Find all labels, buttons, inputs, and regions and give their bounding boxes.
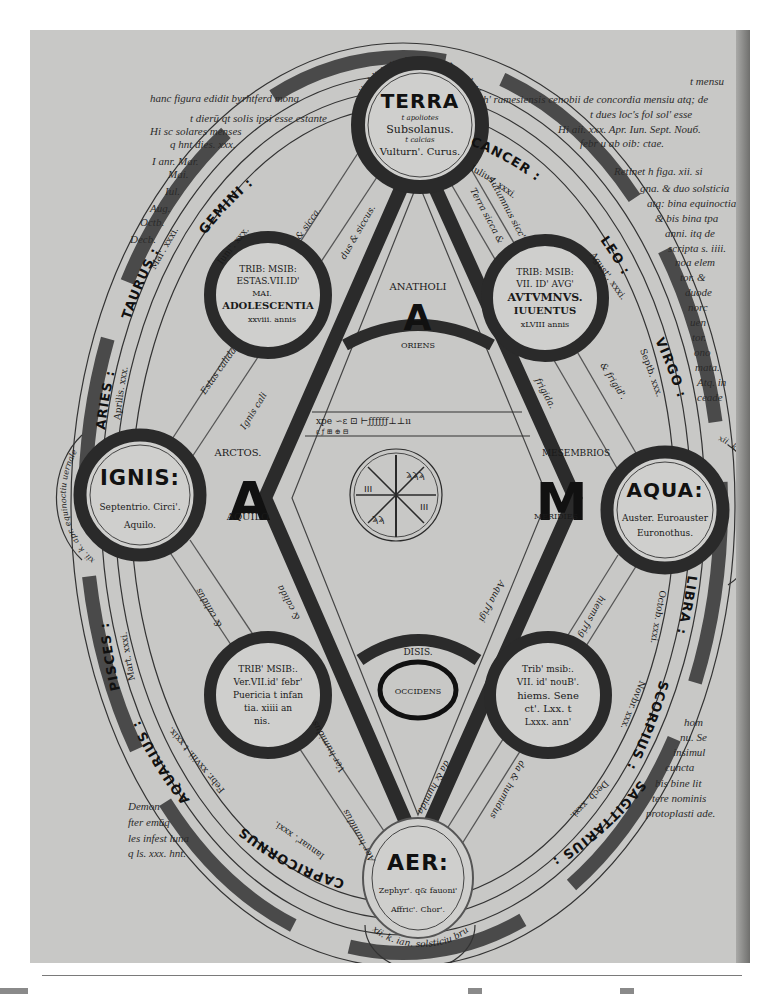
aquilo-label: AQUILO [226, 511, 270, 522]
margin-left-i: I anr. Mar. [151, 155, 198, 167]
ignis-title: IGNIS: [100, 466, 180, 490]
margin-right-h: Hi aii. xxx. Apr. Iun. Sept. Nouб. [557, 123, 701, 135]
hiems-l3: hiems. Sene [517, 690, 579, 701]
margin-right-r9: norc [688, 301, 708, 313]
margin-left-gloss: t dierū qt solis ipsi esse cstante [190, 112, 327, 124]
mesembrios-word: MESEMBRIOS [542, 448, 610, 458]
zodiac-libra: LIBRA : [674, 575, 700, 637]
ignis-line2: Aquilo. [123, 520, 156, 530]
ignis-line1: Septentrio. Circi'. [99, 502, 180, 512]
meridies-label: MERIDIES [534, 512, 578, 521]
quality-calidus: & calidus [193, 586, 223, 629]
ver-l3: Puericia t infan [233, 690, 303, 700]
svg-text:ııı: ııı [420, 501, 428, 512]
bottom-rule [42, 975, 742, 976]
svg-text:ııı: ııı [364, 483, 372, 494]
season-autumnus: TRIB: MSIB: VII. ID' AVG' AVTVMNVS. IUUE… [487, 240, 603, 356]
margin-right-r14: Atq. in [696, 376, 727, 388]
margin-right-r4: anni. itq de [665, 227, 715, 239]
aestas-l3: MAI. [252, 289, 272, 298]
ver-l1: TRIB' MSIB:. [238, 664, 298, 674]
quality-da-humidus: da & humidus [488, 759, 527, 821]
margin-right-bottom-6: protoplasti ade. [645, 807, 715, 819]
compass-east: ANATHOLI A ORIENS [389, 281, 447, 350]
margin-top-right-gloss: t mensu [690, 75, 724, 87]
terra-line4: Vulturn'. Curus. [379, 146, 461, 157]
aestas-l1: TRIB: MSIB: [239, 264, 296, 274]
disis-word: DISIS. [403, 647, 432, 657]
aqua-title: AQUA: [627, 478, 704, 502]
compass-west: DISIS. OCCIDENS [380, 647, 456, 718]
aqua-line2: Euronothus. [637, 528, 693, 538]
svg-text:ϡϡϡ: ϡϡϡ [406, 469, 425, 480]
margin-right-bottom-1: nu. Se [680, 731, 707, 743]
month-martius: Mart. xxxi. [119, 631, 137, 682]
aer-line2: Affric'. Chor'. [390, 905, 445, 914]
central-wheel [350, 449, 442, 541]
ver-l4: tia. xiiii an [244, 703, 292, 713]
manuscript-page: ıııııı ϡϡϡϡϡ xii. kl' iul'. Avtvmnale so… [30, 30, 750, 963]
svg-text:ϡϡ: ϡϡ [372, 513, 385, 524]
aqua-circle: AQUA: Auster. Euroauster Euronothus. [607, 452, 723, 568]
margin-right-r11: tor. [692, 331, 706, 343]
rune-row-2: ε ƒ ⊞ ⊕ ⊟ [316, 428, 349, 436]
margin-left-list-2: Aug. [149, 202, 170, 214]
compass-south: MESEMBRIOS M MERIDIES [534, 448, 610, 532]
margin-top-left: hanc figura edidit byrhtferd mona [150, 92, 300, 104]
south-letter: M [536, 472, 589, 532]
autumnus-l2: VII. ID' AVG' [515, 279, 574, 289]
margin-right-gloss: t dues loc's fol sol' esse [590, 108, 692, 120]
margin-left-list-0: Mai. [167, 168, 188, 180]
terra-line2: Subsolanus. [386, 123, 453, 136]
margin-top-right: ch' ramesiensis cenobii de concordia men… [478, 93, 708, 105]
autumnus-l5: xLVIII annis [521, 320, 569, 329]
margin-left-list-3: Octb. [140, 216, 164, 228]
terra-circle: TERRA t apoliotes Subsolanus. t calcias … [358, 63, 482, 187]
quality-aer-humidus: Aer humidus [340, 807, 377, 864]
ver-l5: nis. [254, 716, 270, 726]
quality-sicca: & sicca. [293, 205, 322, 241]
oriens-label: ORIENS [401, 341, 435, 350]
anatholi-word: ANATHOLI [389, 281, 447, 292]
hiems-l2: VII. id' nouB'. [516, 677, 579, 687]
byrhtferth-diagram: ıııııı ϡϡϡϡϡ xii. kl' iul'. Avtvmnale so… [30, 30, 750, 963]
margin-left-bottom-2: les infest luna [128, 832, 190, 844]
aqua-line1: Auster. Euroauster [621, 513, 709, 523]
quality-hiems-frig: hiems frig [576, 594, 607, 640]
svg-text:LIBRA :: LIBRA : [674, 575, 700, 637]
terra-line1: t apoliotes [401, 114, 439, 122]
margin-right-bottom-2: insimul [673, 746, 705, 758]
autumnus-l1: TRIB: MSIB: [516, 267, 573, 277]
margin-right-r8: duode [685, 286, 712, 298]
margin-left-bottom-1: fter emūq [128, 816, 170, 828]
compass-north: ARCTOS. A AQUILO [214, 447, 272, 533]
margin-right-h2: febr u ab oib: ctae. [580, 137, 664, 149]
aestas-l4: ADOLESCENTIA [221, 300, 314, 311]
margin-right-r10: uen [690, 316, 706, 328]
east-letter: A [404, 297, 433, 338]
autumnus-l4: IUUENTUS [514, 305, 576, 316]
quality-aqua-frigi: Aqua frigi [477, 578, 508, 624]
margin-right-r6: noa elem [675, 256, 715, 268]
svg-text:Mart. xxxi.: Mart. xxxi. [119, 631, 137, 682]
zodiac-aquarius: AQUARIUS : [128, 718, 192, 808]
margin-left-h: Hi sc solares menses [149, 125, 242, 137]
margin-left-bottom-3: q ls. xxx. hnt. [128, 847, 186, 859]
quality-ver-humidus: Ver humidus [309, 719, 347, 774]
hiems-l5: Lxxx. ann' [525, 717, 571, 727]
svg-text:AQUARIUS :: AQUARIUS : [128, 718, 192, 808]
quality-estas-calida: Estas calida [198, 345, 238, 397]
margin-right-r5: scripta s. iiii. [668, 242, 726, 254]
aer-circle: AER: Zephyr'. q& fauoni' Affric'. Chor'. [363, 818, 473, 938]
margin-right-r7: tor. & [680, 271, 706, 283]
aer-title: AER: [387, 850, 449, 875]
aestas-l2: ESTAS.VII.ID' [236, 276, 299, 286]
aer-line1: Zephyr'. q& fauoni' [379, 886, 458, 895]
quality-ignis-cali: Ignis cali [238, 390, 269, 432]
terra-title: TERRA [381, 89, 460, 113]
margin-right-r1: gna. & duo solsticia [640, 182, 730, 194]
ignis-circle: IGNIS: Septentrio. Circi'. Aquilo. [80, 435, 200, 555]
margin-left-list-1: Iul. [164, 185, 180, 197]
rune-row-1: xpe ∽ε ⊡ ⊢ƒƒƒƒƒƒ⊥⊥ıı [316, 416, 411, 426]
margin-right-r15: ceade [697, 391, 723, 403]
